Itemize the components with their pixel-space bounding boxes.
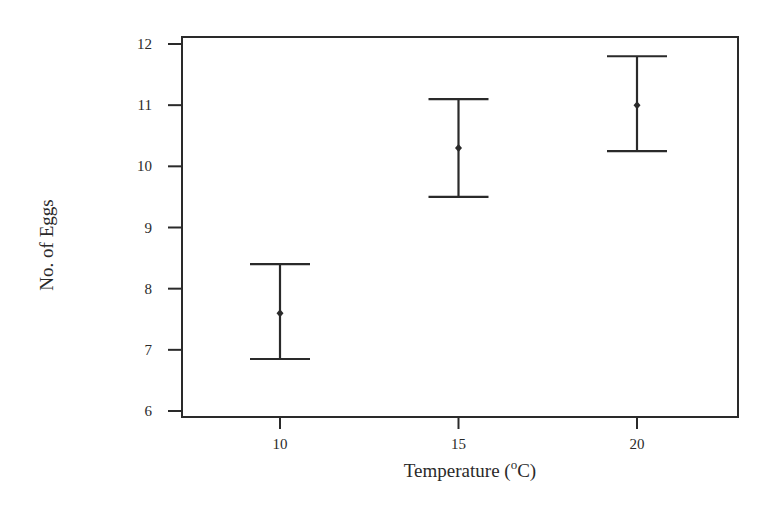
- error-bar: [429, 99, 489, 197]
- mean-marker: [455, 144, 462, 152]
- error-bar: [250, 264, 310, 359]
- x-tick-label: 15: [451, 436, 466, 452]
- y-tick-label: 7: [145, 342, 153, 358]
- y-tick-label: 11: [138, 97, 152, 113]
- error-bar-chart: 6789101112 101520 No. of Eggs Temperatur…: [0, 0, 767, 511]
- y-axis: 6789101112: [137, 36, 182, 419]
- x-axis: 101520: [273, 417, 645, 452]
- error-bar: [607, 56, 667, 151]
- x-axis-title: Temperature (oC): [404, 457, 536, 482]
- y-tick-label: 10: [137, 158, 152, 174]
- mean-marker: [277, 309, 284, 317]
- y-axis-title: No. of Eggs: [36, 199, 57, 290]
- x-tick-label: 10: [273, 436, 288, 452]
- y-tick-label: 6: [145, 403, 153, 419]
- y-tick-label: 8: [145, 281, 153, 297]
- y-tick-label: 12: [137, 36, 152, 52]
- mean-marker: [634, 101, 641, 109]
- x-tick-label: 20: [630, 436, 645, 452]
- error-bars: [250, 56, 667, 359]
- y-tick-label: 9: [145, 220, 153, 236]
